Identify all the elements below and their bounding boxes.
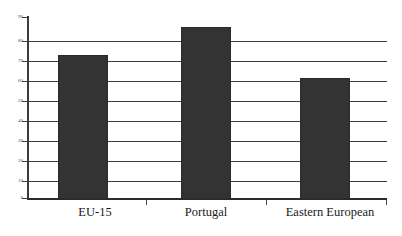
y-axis-tick-label: 10 <box>5 178 23 183</box>
y-axis-tick-label: 30 <box>5 138 23 143</box>
y-axis-tick-label: 70 <box>5 58 23 63</box>
y-axis-tick-label: 80 <box>5 38 23 43</box>
plot-area <box>27 17 387 199</box>
y-axis-tick-label: 20 <box>5 158 23 163</box>
x-axis-label-portugal: Portugal <box>156 203 256 221</box>
bars-layer <box>27 17 387 199</box>
bar-chart: 90 80 70 60 50 40 30 20 10 0 <box>0 0 402 236</box>
y-axis-tick-label: 90 <box>5 14 23 19</box>
y-axis-tick-label: 60 <box>5 78 23 83</box>
x-axis-label-eu-15: EU-15 <box>45 203 145 221</box>
y-axis-tick-label: 0 <box>5 195 23 200</box>
y-axis-tick-label: 50 <box>5 98 23 103</box>
x-axis-label-eastern-european: Eastern European <box>265 203 395 221</box>
y-axis-tick-label: 40 <box>5 118 23 123</box>
x-axis-labels: EU-15 Portugal Eastern European <box>27 203 387 227</box>
bar-portugal[interactable] <box>181 27 231 199</box>
bar-eu-15[interactable] <box>58 55 108 199</box>
bar-eastern-european[interactable] <box>300 78 350 199</box>
